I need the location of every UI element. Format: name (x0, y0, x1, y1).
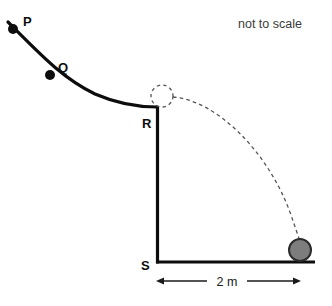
label-r: R (142, 116, 152, 131)
dimension-arrowhead-right (293, 278, 301, 285)
point-marker-p (8, 24, 18, 34)
point-marker-q (45, 70, 55, 80)
label-s: S (141, 258, 150, 273)
diagram-canvas: P Q R S not to scale 2 m (0, 0, 332, 306)
projectile-trajectory (173, 97, 300, 240)
physics-diagram: P Q R S not to scale 2 m (0, 0, 332, 306)
launch-position-circle (151, 85, 173, 107)
dimension-arrowhead-left (156, 278, 164, 285)
dimension-label: 2 m (217, 275, 238, 289)
ball (289, 239, 311, 261)
label-p: P (23, 14, 32, 29)
not-to-scale-note: not to scale (238, 17, 302, 31)
label-q: Q (58, 60, 68, 75)
ramp-curve (8, 22, 157, 107)
